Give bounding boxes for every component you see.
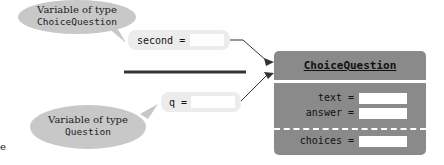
field-text-value <box>359 93 407 104</box>
field-choices-value <box>359 136 407 147</box>
callout-type: Question <box>30 126 146 138</box>
subclass-separator <box>274 128 426 130</box>
reference-box <box>190 34 224 46</box>
callout-type: ChoiceQuestion <box>18 16 136 28</box>
variable-label: q = <box>169 97 187 108</box>
callout-text: Variable of type <box>30 114 146 126</box>
variable-q: q = <box>161 92 241 112</box>
object-class-name: ChoiceQuestion <box>274 59 426 72</box>
variable-label: second = <box>137 35 185 46</box>
field-choices-label: choices = <box>274 135 354 146</box>
field-answer-value <box>359 108 407 119</box>
choicequestion-object: ChoiceQuestion text = answer = choices = <box>274 51 426 155</box>
variable-second: second = <box>128 30 230 50</box>
callout-choicequestion: Variable of type ChoiceQuestion <box>18 0 136 34</box>
arrowhead-icon <box>264 58 274 66</box>
arrowhead-icon <box>264 72 274 79</box>
field-text-label: text = <box>274 92 354 103</box>
callout-question: Variable of type Question <box>30 105 146 149</box>
reference-box <box>191 96 235 108</box>
field-answer-label: answer = <box>274 107 354 118</box>
header-separator <box>274 80 426 83</box>
edge-text-fragment: e <box>0 141 6 152</box>
callout-text: Variable of type <box>18 4 136 16</box>
